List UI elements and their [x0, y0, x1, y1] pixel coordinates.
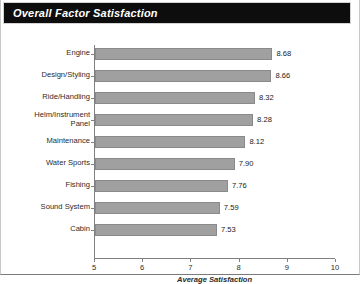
bar-value-label: 7.53	[221, 225, 236, 235]
bar-value-label: 7.59	[224, 203, 239, 213]
y-axis-tick	[91, 186, 94, 187]
x-axis-tick-label: 7	[188, 263, 192, 272]
bar-value-label: 8.66	[275, 71, 290, 81]
bar-row: Sound System7.59	[1, 202, 360, 224]
x-axis-tick-label: 6	[140, 263, 144, 272]
y-axis-tick	[91, 142, 94, 143]
x-axis-tick	[287, 259, 288, 262]
bar-row: Fishing7.76	[1, 180, 360, 202]
bar-row: Helm/Instrument Panel8.28	[1, 114, 360, 136]
y-axis-tick	[91, 98, 94, 99]
category-label: Ride/Handling	[0, 92, 90, 101]
x-axis-tick	[94, 259, 95, 262]
title-banner: Overall Factor Satisfaction	[3, 2, 351, 24]
category-label: Water Sports	[0, 158, 90, 167]
category-label: Sound System	[0, 202, 90, 211]
bar-row: Water Sports7.90	[1, 158, 360, 180]
bar-value-label: 8.28	[257, 115, 272, 125]
x-axis-line	[94, 258, 335, 259]
bar-row: Cabin7.53	[1, 224, 360, 246]
bar-value-label: 8.12	[249, 137, 264, 147]
y-axis-tick	[91, 208, 94, 209]
category-label: Fishing	[0, 180, 90, 189]
bar-row: Maintenance8.12	[1, 136, 360, 158]
category-label: Maintenance	[0, 136, 90, 145]
y-axis-tick	[91, 54, 94, 55]
x-axis-tick	[239, 259, 240, 262]
plot-area: Engine8.68Design/Styling8.66Ride/Handlin…	[1, 30, 360, 275]
x-axis-tick-label: 10	[331, 263, 339, 272]
bar	[95, 114, 253, 126]
bar	[95, 202, 220, 214]
page-title: Overall Factor Satisfaction	[13, 7, 158, 19]
bar	[95, 158, 235, 170]
bar-value-label: 8.68	[276, 49, 291, 59]
category-label: Cabin	[0, 224, 90, 233]
y-axis-tick	[91, 76, 94, 77]
x-axis-tick	[190, 259, 191, 262]
bar	[95, 48, 272, 60]
category-label: Design/Styling	[0, 70, 90, 79]
bar-row: Design/Styling8.66	[1, 70, 360, 92]
x-axis-tick-label: 5	[92, 263, 96, 272]
x-axis-title: Average Satisfaction	[94, 275, 335, 284]
y-axis-tick	[91, 120, 94, 121]
bar-row: Engine8.68	[1, 48, 360, 70]
bar	[95, 92, 255, 104]
bar	[95, 136, 245, 148]
x-axis-tick-label: 9	[285, 263, 289, 272]
bar-value-label: 7.90	[239, 159, 254, 169]
x-axis-tick-label: 8	[236, 263, 240, 272]
category-label: Engine	[0, 48, 90, 57]
bar-value-label: 7.76	[232, 181, 247, 191]
bar-value-label: 8.32	[259, 93, 274, 103]
x-axis-tick	[335, 259, 336, 262]
bar	[95, 70, 271, 82]
y-axis-tick	[91, 230, 94, 231]
x-axis-tick	[142, 259, 143, 262]
bar	[95, 180, 228, 192]
y-axis-tick	[91, 164, 94, 165]
category-label: Helm/Instrument Panel	[0, 110, 90, 128]
bar	[95, 224, 217, 236]
